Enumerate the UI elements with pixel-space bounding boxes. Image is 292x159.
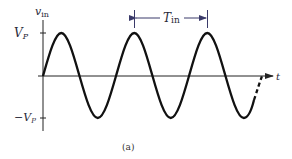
period-label: Tin [163, 11, 180, 25]
figure-caption: (a) [122, 142, 134, 152]
y-axis-label: vin [35, 5, 49, 19]
t-axis-label: t [276, 71, 281, 82]
neg-vp-label: −VP [14, 111, 36, 125]
waveform-diagram: vin VP −VP Tin t (a) [0, 0, 292, 159]
sine-waveform-continuation [254, 76, 262, 100]
vp-label: VP [14, 26, 29, 41]
